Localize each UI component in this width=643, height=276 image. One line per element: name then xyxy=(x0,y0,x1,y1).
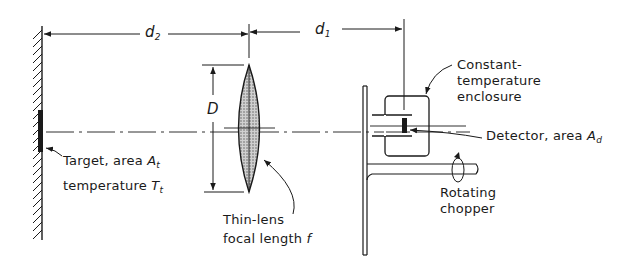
lens-label: Thin-lens focal length f xyxy=(223,212,311,247)
target-patch xyxy=(38,110,43,152)
d2-label: d2 xyxy=(145,24,161,45)
detector-leader xyxy=(410,130,482,138)
lens-leader xyxy=(264,160,294,214)
detector-label: Detector, area Ad xyxy=(486,128,602,148)
target-label: Target, area At temperature Tt xyxy=(63,153,163,198)
thin-lens xyxy=(224,65,275,192)
target-leader xyxy=(46,148,62,156)
rotation-arrow-icon xyxy=(452,152,464,182)
D-label: D xyxy=(207,101,219,117)
enclosure-leader xyxy=(426,65,452,94)
detector-element xyxy=(402,118,407,133)
enclosure xyxy=(370,96,466,156)
enclosure-label: Constant- temperature enclosure xyxy=(457,57,541,105)
chopper-shaft xyxy=(367,164,478,180)
chopper-label: Rotating chopper xyxy=(440,185,496,217)
D-dimension xyxy=(202,65,244,192)
chopper-plate xyxy=(363,86,367,255)
d1-label: d1 xyxy=(315,21,331,42)
